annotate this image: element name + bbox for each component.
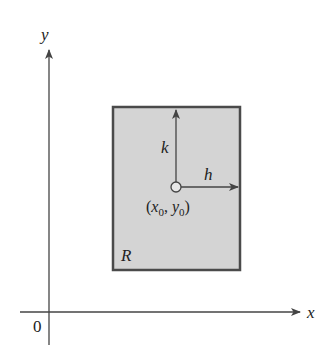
k-label: k — [161, 138, 169, 157]
h-label: h — [204, 165, 213, 184]
point-marker — [171, 182, 181, 192]
origin-label: 0 — [33, 317, 42, 336]
x-axis-label: x — [306, 303, 315, 322]
diagram-canvas: y x 0 k h R (x0, y0) — [0, 0, 334, 359]
y-axis-label: y — [39, 25, 49, 44]
region-label: R — [120, 246, 132, 265]
